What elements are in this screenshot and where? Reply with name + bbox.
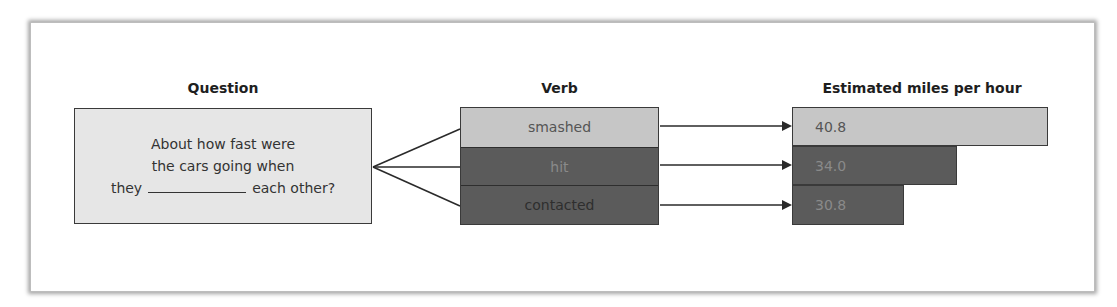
verb-heading: Verb — [460, 80, 659, 96]
question-box: About how fast were the cars going when … — [74, 108, 372, 224]
bar-contacted: 30.8 — [792, 185, 904, 225]
bar-hit: 34.0 — [792, 146, 957, 185]
verb-hit: hit — [461, 147, 658, 186]
question-heading: Question — [74, 80, 372, 96]
verb-contacted: contacted — [461, 185, 658, 224]
question-line-3: theyeach other? — [111, 177, 335, 199]
question-line-3-prefix: they — [111, 180, 142, 196]
estimate-heading: Estimated miles per hour — [812, 80, 1032, 96]
blank-line — [148, 178, 246, 193]
bar-smashed: 40.8 — [792, 107, 1048, 146]
verb-stack: smashed hit contacted — [460, 107, 659, 225]
arrow-head-icon — [782, 200, 792, 210]
arrow-head-icon — [782, 121, 792, 131]
question-line-3-suffix: each other? — [252, 180, 335, 196]
arrow-head-icon — [782, 160, 792, 170]
question-line-2: the cars going when — [111, 155, 335, 177]
verb-smashed: smashed — [461, 108, 658, 147]
question-line-1: About how fast were — [111, 133, 335, 155]
